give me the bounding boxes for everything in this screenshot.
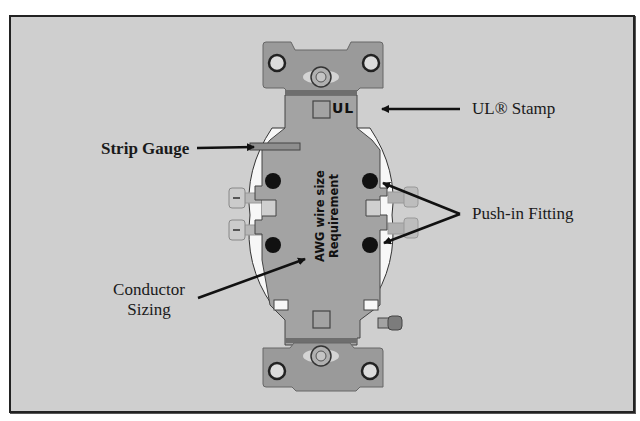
awg-wire-size-text: AWG wire size Requirement [313,170,342,262]
push-in-hole-right-top [362,173,378,189]
mounting-strap-bottom [263,338,383,391]
conductor-sizing-label: Conductor Sizing [104,280,194,319]
right-notch [366,200,380,216]
push-in-hole-left-top [265,173,281,189]
push-in-fitting-label: Push-in Fitting [472,204,574,224]
strip-gauge-label: Strip Gauge [101,139,189,159]
ul-stamp-label: UL® Stamp [472,99,555,119]
push-in-hole-right-bottom [362,237,378,253]
conductor-sizing-line-2: Sizing [104,300,194,320]
ground-screw [378,316,402,330]
strip-gauge-bar [250,143,300,150]
awg-line-1: AWG wire size [313,170,327,262]
awg-line-2: Requirement [327,170,341,262]
rib-right [364,300,378,310]
mounting-strap-top [263,42,383,95]
rib-left [274,300,288,310]
left-notch [262,200,276,216]
ul-mark: UL [332,100,354,116]
conductor-sizing-line-1: Conductor [104,280,194,300]
strip-gauge-arrow [197,147,254,148]
push-in-hole-left-bottom [265,237,281,253]
